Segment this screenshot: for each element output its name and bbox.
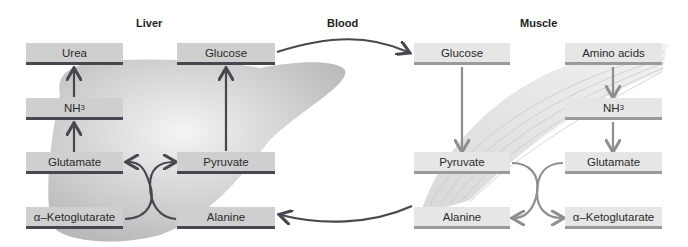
liver-alanine-box: Alanine bbox=[177, 207, 275, 229]
liver-ketoglutarate-box: α–Ketoglutarate bbox=[26, 207, 123, 229]
liver-glucose-box: Glucose bbox=[177, 43, 275, 65]
liver-urea-box: Urea bbox=[26, 43, 123, 65]
muscle-title: Muscle bbox=[520, 17, 557, 29]
subscript: 3 bbox=[81, 103, 85, 112]
label: Pyruvate bbox=[203, 156, 248, 168]
blood-title: Blood bbox=[327, 17, 358, 29]
subscript: 3 bbox=[620, 103, 624, 112]
label: α–Ketoglutarate bbox=[573, 211, 654, 223]
liver-nh3-box: NH3 bbox=[26, 98, 123, 120]
label: NH bbox=[603, 102, 620, 114]
label: Alanine bbox=[443, 211, 481, 223]
muscle-alanine-box: Alanine bbox=[414, 207, 510, 229]
liver-title: Liver bbox=[136, 17, 162, 29]
label: Pyruvate bbox=[439, 156, 484, 168]
label: Urea bbox=[62, 47, 87, 59]
label: Alanine bbox=[207, 211, 245, 223]
label: Glutamate bbox=[587, 156, 640, 168]
muscle-amino-acids-box: Amino acids bbox=[565, 43, 662, 65]
liver-pyruvate-box: Pyruvate bbox=[177, 152, 275, 174]
muscle-pyruvate-box: Pyruvate bbox=[414, 152, 510, 174]
label: Glucose bbox=[441, 47, 483, 59]
liver-glutamate-box: Glutamate bbox=[26, 152, 123, 174]
label: Glutamate bbox=[48, 156, 101, 168]
muscle-glutamate-box: Glutamate bbox=[565, 152, 662, 174]
label: Glucose bbox=[205, 47, 247, 59]
label: α–Ketoglutarate bbox=[34, 211, 115, 223]
label: Amino acids bbox=[582, 47, 645, 59]
muscle-nh3-box: NH3 bbox=[565, 98, 662, 120]
muscle-ketoglutarate-box: α–Ketoglutarate bbox=[565, 207, 662, 229]
muscle-glucose-box: Glucose bbox=[414, 43, 510, 65]
label: NH bbox=[64, 102, 81, 114]
